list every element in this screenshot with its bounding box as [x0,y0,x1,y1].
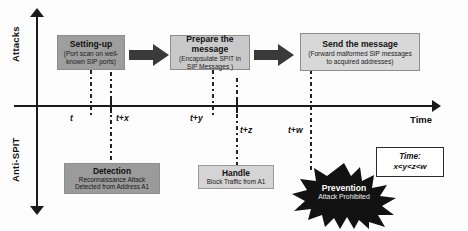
vertical-axis-line [36,14,38,213]
phase-title: Setting-up [62,39,120,49]
time-axis-arrow-icon [432,100,441,112]
phase-title: Prepare the message [175,34,245,54]
phase-subtitle: (Port scan on well-known SIP ports) [62,50,120,65]
guide-line-t-plus-y [212,70,214,116]
time-legend-box: Time: x<y<z<w [376,147,444,177]
tick-label-t-plus-w: t+w [288,125,303,135]
axis-label-time: Time [410,114,432,125]
phase-subtitle: (Forward malformed SIP messages to acqui… [305,50,415,65]
phase-subtitle: (Encapsulate SPIT in SIP Messages ) [175,55,245,70]
tick-mark-t-plus-x [110,99,112,113]
phase-title: Send the message [305,39,415,49]
action-subtitle: Reconnaissance Attack Detected from Addr… [67,176,157,191]
tick-label-t-plus-z: t+z [240,125,252,135]
phase-box-send-the-message[interactable]: Send the message (Forward malformed SIP … [300,33,420,71]
time-axis-line [14,105,434,107]
phase-box-setting-up[interactable]: Setting-up (Port scan on well-known SIP … [57,35,125,70]
phase-box-prepare-the-message[interactable]: Prepare the message (Encapsulate SPIT in… [170,35,250,70]
action-box-detection[interactable]: Detection Reconnaissance Attack Detected… [64,163,160,194]
axis-label-attacks: Attacks [10,26,21,62]
time-legend-title: Time: [377,152,443,162]
tick-label-t: t [70,113,73,123]
flow-arrow-setup-to-prepare [129,44,169,66]
vertical-axis-up-arrow-icon [30,8,44,17]
action-title: Detection [67,166,157,176]
guide-line-t [90,70,92,116]
diagram-canvas: Attacks Anti-SPIT Time t t+x t+y t+z t+w… [0,0,468,231]
flow-arrow-prepare-to-send [254,44,294,66]
action-box-handle[interactable]: Handle Block Traffic from A1 [198,165,274,189]
tick-label-t-plus-y: t+y [190,113,203,123]
guide-line-t-plus-z [236,78,238,168]
time-legend-expression: x<y<z<w [377,162,443,172]
action-title: Handle [201,168,271,178]
vertical-axis-down-arrow-icon [30,206,44,215]
guide-line-t-plus-w [310,70,312,170]
axis-label-anti-spit: Anti-SPIT [10,137,21,182]
action-subtitle: Block Traffic from A1 [201,178,271,185]
tick-mark-t-plus-z [236,99,238,113]
tick-label-t-plus-x: t+x [116,113,129,123]
